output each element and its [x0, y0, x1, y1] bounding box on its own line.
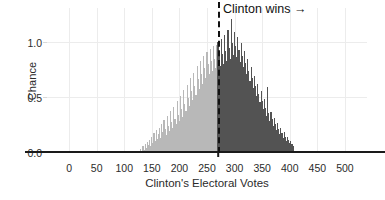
x-tick-label: 150 — [143, 162, 161, 174]
histogram-bars — [47, 8, 367, 153]
x-tick-label: 0 — [66, 162, 72, 174]
x-tick-label: 100 — [115, 162, 133, 174]
threshold-dashed-line — [218, 2, 220, 153]
x-axis-label: Clinton's Electoral Votes — [145, 177, 269, 189]
threshold-tick-mark — [217, 152, 219, 157]
x-tick-label: 400 — [281, 162, 299, 174]
x-tick-label: 50 — [91, 162, 103, 174]
y-tick-label: 0.0 — [27, 147, 42, 159]
y-tick-mark — [43, 97, 47, 98]
x-tick-label: 300 — [226, 162, 244, 174]
x-tick-label: 450 — [309, 162, 327, 174]
y-tick-label: 1.0 — [27, 37, 42, 49]
x-tick-label: 250 — [198, 162, 216, 174]
x-tick-label: 350 — [253, 162, 271, 174]
x-axis-line — [25, 151, 385, 153]
clinton-wins-annotation: Clinton wins → — [223, 2, 306, 16]
x-tick-label: 500 — [336, 162, 354, 174]
x-tick-label: 200 — [171, 162, 189, 174]
y-tick-mark — [43, 42, 47, 43]
y-tick-label: 0.5 — [27, 92, 42, 104]
plot-area: Chance 0.00.51.0 05010015020025030035040… — [47, 8, 367, 153]
